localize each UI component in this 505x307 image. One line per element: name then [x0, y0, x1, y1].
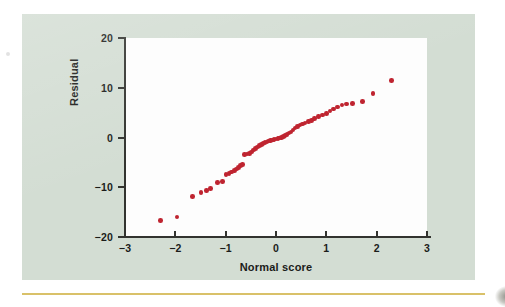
- scatter-point: [215, 180, 220, 185]
- x-tick-mark: [225, 231, 227, 237]
- scatter-point: [190, 194, 195, 199]
- page-speck: [6, 52, 10, 56]
- x-tick-mark: [376, 231, 378, 237]
- x-tick-label: −1: [206, 242, 246, 254]
- y-tick-mark: [118, 87, 124, 89]
- y-tick-label: 0: [73, 132, 113, 144]
- scatter-point: [208, 186, 213, 191]
- gold-divider-rule: [22, 293, 485, 295]
- x-tick-label: 2: [357, 242, 397, 254]
- x-axis-title: Normal score: [125, 261, 427, 273]
- x-tick-mark: [325, 231, 327, 237]
- scatter-point: [199, 190, 204, 195]
- scatter-point: [371, 91, 376, 96]
- figure-panel: −20−1001020 −3−2−10123 Residual Normal s…: [22, 14, 475, 280]
- y-tick-mark: [118, 186, 124, 188]
- y-axis-line: [124, 37, 126, 238]
- x-tick-mark: [426, 231, 428, 237]
- x-tick-label: −2: [155, 242, 195, 254]
- scatter-point: [360, 99, 365, 104]
- scatter-point: [220, 179, 225, 184]
- x-tick-mark: [124, 231, 126, 237]
- y-tick-mark: [118, 137, 124, 139]
- y-tick-label: −10: [73, 181, 113, 193]
- y-axis-title: Residual: [68, 59, 80, 106]
- x-tick-mark: [275, 231, 277, 237]
- x-tick-label: −3: [105, 242, 145, 254]
- scatter-point: [240, 162, 245, 167]
- x-tick-label: 3: [407, 242, 447, 254]
- scatter-point: [389, 78, 394, 83]
- page-edge-shadow: [495, 286, 505, 307]
- x-axis-line: [124, 236, 431, 238]
- y-tick-label: 20: [73, 32, 113, 44]
- x-tick-label: 0: [256, 242, 296, 254]
- scatter-point: [158, 218, 163, 223]
- y-tick-mark: [118, 37, 124, 39]
- scatter-point: [350, 101, 355, 106]
- x-tick-label: 1: [306, 242, 346, 254]
- x-tick-mark: [174, 231, 176, 237]
